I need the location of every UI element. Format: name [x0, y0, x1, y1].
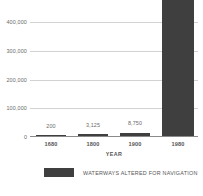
- bar-1680[interactable]: [36, 135, 66, 137]
- x-axis-title: YEAR: [30, 151, 198, 157]
- y-axis-tick-label: 200,000: [0, 77, 27, 83]
- x-axis-baseline: [30, 136, 198, 137]
- legend-label-waterways: WATERWAYS ALTERED FOR NAVIGATION: [83, 170, 198, 176]
- y-axis-tick-label-zero: 0: [0, 134, 27, 140]
- x-axis-tick-label-1680: 1680: [36, 141, 66, 148]
- y-axis-tick-label: 100,000: [0, 105, 27, 111]
- bar-1900[interactable]: [120, 133, 150, 137]
- y-axis-tick-label: 400,000: [0, 19, 27, 25]
- bar-value-label-1900: 8,750: [120, 120, 150, 126]
- x-axis-tick-label-1980: 1980: [162, 141, 194, 148]
- plot-area: 200 3,125 8,750: [30, 0, 198, 137]
- legend: WATERWAYS ALTERED FOR NAVIGATION: [44, 168, 198, 177]
- legend-swatch-waterways: [44, 168, 74, 177]
- x-axis-tick-label-1800: 1800: [78, 141, 108, 148]
- y-axis-tick-label: 300,000: [0, 48, 27, 54]
- bar-chart: 400,000 300,000 200,000 100,000 0 200 3,…: [0, 0, 203, 196]
- x-axis-tick-label-1900: 1900: [120, 141, 150, 148]
- bar-1800[interactable]: [78, 134, 108, 136]
- bar-1980[interactable]: [162, 0, 194, 136]
- bar-value-label-1800: 3,125: [78, 122, 108, 128]
- bar-value-label-1680: 200: [36, 123, 66, 129]
